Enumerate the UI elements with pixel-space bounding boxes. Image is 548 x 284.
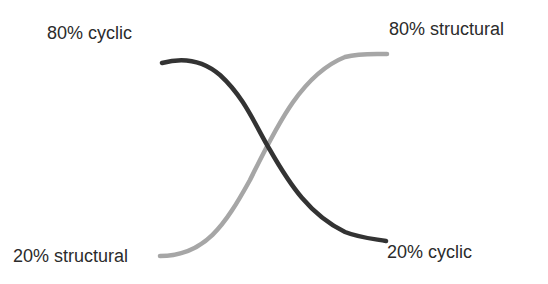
label-20-structural: 20% structural [13, 247, 128, 265]
label-20-cyclic: 20% cyclic [387, 243, 472, 261]
label-80-cyclic: 80% cyclic [47, 24, 132, 42]
cyclic-curve [162, 60, 386, 241]
label-80-structural: 80% structural [389, 20, 504, 38]
